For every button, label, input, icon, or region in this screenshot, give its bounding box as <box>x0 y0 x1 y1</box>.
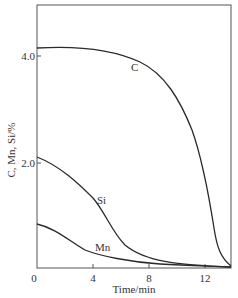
y-tick-label-2: 2.0 <box>21 157 35 169</box>
x-tick-label-0: 0 <box>31 272 37 284</box>
x-axis-label: Time/min <box>113 283 156 295</box>
series-si-line <box>37 157 231 267</box>
series-c-line <box>37 47 231 266</box>
chart: 0 4 8 12 4.0 2.0 Time/min C, Mn, Si/% C … <box>0 0 238 298</box>
x-tick-label-4: 4 <box>90 272 96 284</box>
y-tick-label-4: 4.0 <box>21 50 35 62</box>
series-mn-label: Mn <box>95 241 111 253</box>
y-axis-label: C, Mn, Si/% <box>5 122 17 177</box>
series-c-label: C <box>131 61 138 73</box>
x-tick-label-12: 12 <box>200 272 211 284</box>
y-ticks <box>37 56 41 163</box>
plot-frame <box>37 5 231 268</box>
series-si-label: Si <box>97 194 106 206</box>
series-mn-line <box>37 224 231 267</box>
